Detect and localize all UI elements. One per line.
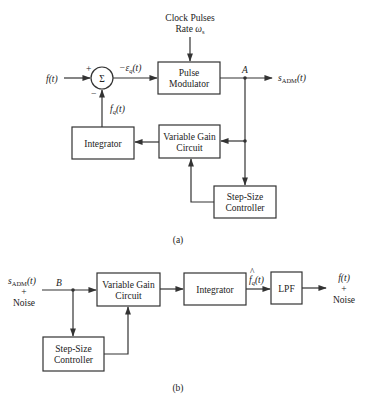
node-b-label: B xyxy=(56,278,62,288)
pulse-modulator-line2: Modulator xyxy=(169,79,210,89)
input-plus: + xyxy=(21,287,26,297)
node-a-label: A xyxy=(241,65,248,75)
input-s-adm-label: sADM(t) xyxy=(8,276,36,287)
stepsize-b-line2: Controller xyxy=(54,355,94,365)
input-f-label: f(t) xyxy=(46,74,58,85)
output-noise: Noise xyxy=(333,295,355,305)
stepsize-a-line2: Controller xyxy=(225,203,265,213)
summing-junction: Σ xyxy=(91,67,113,89)
clock-pulses-label: Clock Pulses xyxy=(165,13,215,23)
minus-sign: − xyxy=(91,89,96,99)
output-plus: + xyxy=(341,284,346,294)
diagram-b: sADM(t) + Noise B Variable Gain Circuit … xyxy=(8,267,355,394)
integrator-a-label: Integrator xyxy=(84,139,122,149)
stepsize-to-vgc-arrow xyxy=(191,159,214,202)
pulse-modulator-line1: Pulse xyxy=(179,68,200,78)
step-size-block-a xyxy=(214,186,276,218)
input-noise: Noise xyxy=(13,298,35,308)
stepsize-a-line1: Step-Size xyxy=(227,192,263,202)
diagram-a: Clock Pulses Rate ωs f(t) Σ + − −εq(t) P… xyxy=(46,13,306,246)
caption-b: (b) xyxy=(172,383,183,394)
output-f-label: f(t) xyxy=(338,273,350,284)
pulse-modulator-block xyxy=(158,62,220,94)
output-s-adm-label: sADM(t) xyxy=(278,73,306,84)
caption-a: (a) xyxy=(173,235,184,246)
integrator-b-label: Integrator xyxy=(196,285,234,295)
clock-rate-label: Rate ωs xyxy=(175,24,205,35)
vgc-a-line2: Circuit xyxy=(176,143,203,153)
plus-sign: + xyxy=(86,64,91,74)
stepsize-to-vgc-arrow-b xyxy=(104,307,128,354)
feedback-fq-label: fq(t) xyxy=(110,104,125,115)
hat-symbol: ^ xyxy=(250,267,255,277)
sigma-symbol: Σ xyxy=(99,74,105,84)
vgc-a-line1: Variable Gain xyxy=(163,132,216,142)
step-size-block-b xyxy=(43,337,104,371)
adm-block-diagrams: Clock Pulses Rate ωs f(t) Σ + − −εq(t) P… xyxy=(0,0,370,405)
vgc-b-line2: Circuit xyxy=(115,291,142,301)
vgc-b-line1: Variable Gain xyxy=(102,280,155,290)
stepsize-b-line1: Step-Size xyxy=(55,344,91,354)
lpf-label: LPF xyxy=(278,284,294,294)
error-label: −εq(t) xyxy=(119,63,141,74)
